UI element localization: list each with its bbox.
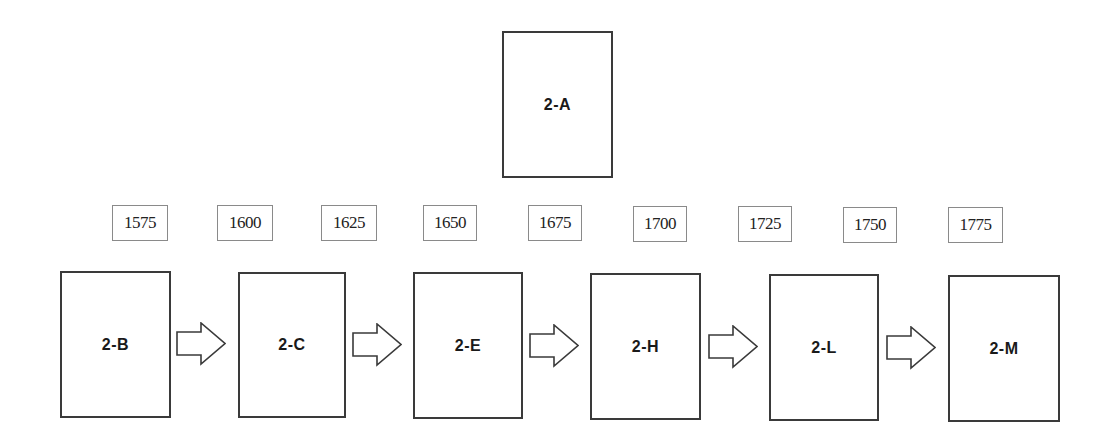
stage-label: 2-B (102, 336, 129, 354)
stage-box-2-b: 2-B (60, 271, 171, 418)
year-label: 1575 (124, 213, 156, 233)
year-label: 1725 (749, 214, 781, 234)
year-box-1600: 1600 (217, 205, 273, 241)
right-arrow-icon (708, 325, 758, 369)
timeline-diagram: 2-A 1575 1600 1625 1650 1675 1700 1725 1… (0, 0, 1117, 436)
stage-box-2-h: 2-H (590, 273, 701, 420)
year-box-1775: 1775 (948, 207, 1003, 243)
stage-box-2-m: 2-M (948, 275, 1060, 422)
stage-label: 2-E (455, 337, 481, 355)
year-box-1625: 1625 (321, 205, 377, 241)
year-label: 1625 (333, 213, 365, 233)
year-box-1700: 1700 (633, 206, 687, 242)
year-label: 1600 (229, 213, 261, 233)
year-box-1675: 1675 (528, 205, 582, 241)
year-label: 1700 (644, 214, 676, 234)
year-label: 1775 (960, 215, 992, 235)
stage-label: 2-H (632, 338, 659, 356)
right-arrow-icon (886, 326, 936, 370)
year-box-1725: 1725 (738, 206, 792, 242)
stage-label: 2-M (989, 340, 1018, 358)
year-label: 1750 (854, 215, 886, 235)
stage-box-2-a: 2-A (502, 31, 613, 178)
stage-box-2-c: 2-C (238, 272, 346, 418)
stage-label: 2-L (811, 339, 837, 357)
year-box-1575: 1575 (112, 205, 168, 241)
year-label: 1650 (434, 213, 466, 233)
year-box-1750: 1750 (843, 207, 897, 243)
stage-label: 2-C (278, 336, 305, 354)
stage-box-2-l: 2-L (769, 274, 879, 421)
right-arrow-icon (176, 322, 226, 366)
right-arrow-icon (352, 323, 402, 367)
stage-label: 2-A (544, 96, 571, 114)
right-arrow-icon (529, 324, 579, 368)
year-label: 1675 (539, 213, 571, 233)
year-box-1650: 1650 (423, 205, 477, 241)
stage-box-2-e: 2-E (413, 272, 523, 419)
